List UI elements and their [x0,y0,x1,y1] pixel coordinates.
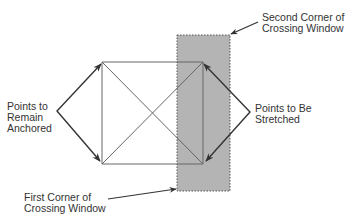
label-points-anchored: Points to Remain Anchored [7,101,52,134]
first-corner-arrow [108,189,176,199]
second-corner-arrow [231,22,258,34]
label-line: Stretched [255,114,312,125]
label-first-corner: First Corner of Crossing Window [24,192,106,214]
anchored-arrows [57,64,101,161]
label-line: Anchored [7,123,52,134]
label-line: Crossing Window [262,23,344,34]
label-points-stretched: Points to Be Stretched [255,103,312,125]
label-line: Crossing Window [24,203,106,214]
label-second-corner: Second Corner of Crossing Window [262,12,344,34]
